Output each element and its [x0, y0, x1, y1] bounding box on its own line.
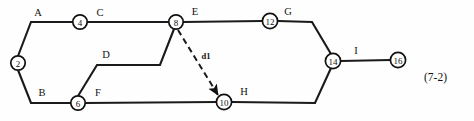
edge-path-g	[278, 21, 331, 54]
network-diagram-canvas: 2 4 6 8 10 12 14 16 A C E G I B F H D d1…	[0, 0, 474, 121]
edge-label-d: D	[102, 49, 110, 60]
node-label-6: 6	[76, 99, 81, 109]
edge-label-e: E	[192, 6, 198, 17]
edge-label-h: H	[240, 86, 248, 97]
edge-label-f: F	[95, 87, 101, 98]
network-node-labels-group: 2 4 6 8 10 12 14 16	[16, 17, 403, 109]
edge-path-e	[183, 21, 262, 22]
edge-label-c: C	[96, 7, 103, 18]
edge-label-i: I	[354, 45, 358, 56]
dummy-edge-path-d1	[178, 30, 218, 95]
node-label-16: 16	[394, 56, 404, 66]
dummy-edge-group	[178, 30, 218, 95]
node-label-12: 12	[266, 17, 275, 27]
node-label-14: 14	[329, 57, 339, 67]
edge-label-g: G	[284, 6, 292, 17]
node-label-4: 4	[78, 18, 83, 28]
figure-caption: (7-2)	[424, 71, 447, 83]
edge-path-f	[85, 102, 217, 103]
node-label-10: 10	[220, 98, 230, 108]
network-diagram-svg: 2 4 6 8 10 12 14 16 A C E G I B F H D d1	[0, 0, 474, 121]
edge-label-b: B	[38, 87, 45, 98]
edge-label-a: A	[34, 7, 42, 18]
edge-label-d1: d1	[202, 51, 211, 61]
node-label-2: 2	[16, 59, 21, 69]
edge-path-i	[341, 60, 390, 61]
node-label-8: 8	[174, 18, 179, 28]
edge-path-d	[78, 29, 174, 96]
edge-path-a	[18, 22, 73, 56]
